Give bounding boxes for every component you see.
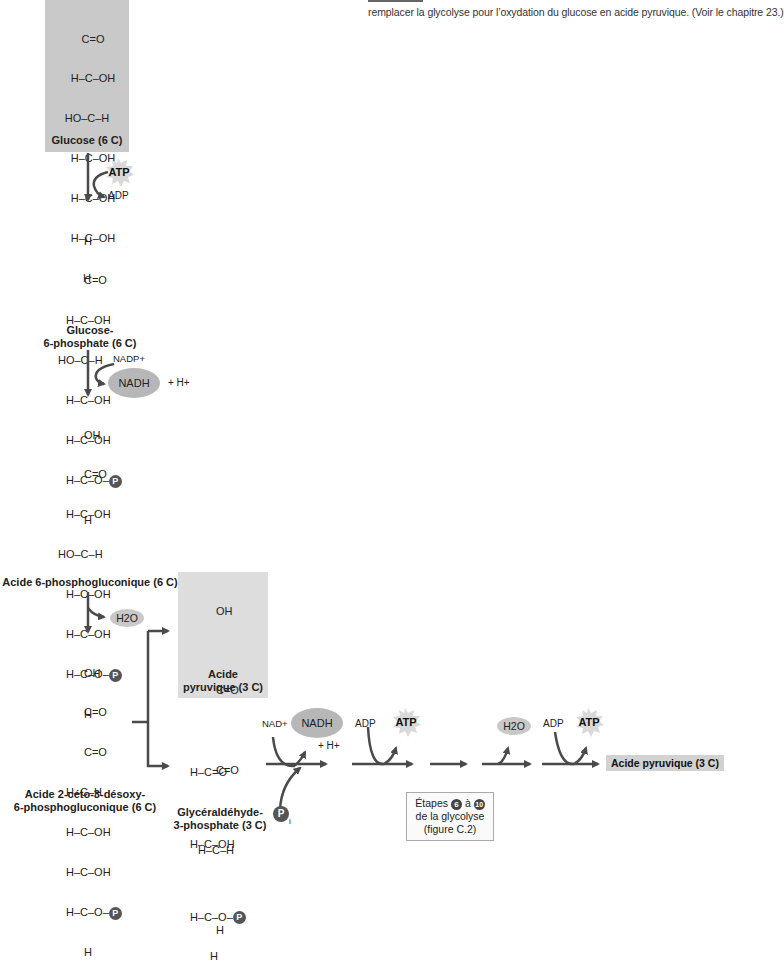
phosphate-icon: P [109, 907, 122, 920]
nadh-label-2: NADH [301, 717, 332, 729]
kdpg-row-text: H–C–O– [66, 906, 109, 918]
steps-prefix: Étapes [415, 797, 448, 809]
kdpg-row: H [58, 946, 158, 959]
plus-h-label-2: + H+ [318, 740, 340, 751]
g3p-row: H–C–O–P [190, 911, 280, 924]
adp-label-a: ADP [355, 718, 376, 729]
adp-label-b: ADP [543, 718, 564, 729]
nadh-ellipse-2: NADH [291, 708, 343, 738]
nadh-label: NADH [118, 377, 149, 389]
bond-line [190, 878, 280, 884]
steps-mid: à [465, 797, 471, 809]
steps-line3: (figure C.2) [412, 823, 488, 836]
final-product-box: Acide pyruvique (3 C) [606, 755, 724, 771]
phosphate-icon: P [233, 911, 246, 924]
atp-label-b: ATP [575, 716, 603, 728]
water-label-2: H2O [503, 720, 525, 732]
g3p-row-text: H–C–O– [190, 911, 233, 923]
adp-label: ADP [108, 190, 129, 201]
steps-line1: Étapes 6 à 10 [412, 797, 488, 810]
water-label: H2O [116, 612, 138, 624]
plus-h-label: + H+ [168, 377, 190, 388]
kdpg-row: H–C–OH [58, 866, 158, 879]
nadp-label: NADP+ [113, 353, 145, 364]
kdpg-row: H–C–O–P [58, 906, 158, 919]
glycolysis-steps-box: Étapes 6 à 10 de la glycolyse (figure C.… [406, 792, 494, 841]
step-number-6: 6 [451, 799, 462, 810]
water-ellipse-1: H2O [110, 609, 144, 627]
nad-label: NAD+ [262, 718, 288, 729]
water-ellipse-2: H2O [497, 717, 531, 735]
steps-line2: de la glycolyse [412, 810, 488, 823]
atp-label-a: ATP [392, 716, 420, 728]
atp-label: ATP [104, 166, 134, 178]
step-number-10: 10 [474, 799, 485, 810]
nadh-ellipse: NADH [108, 368, 160, 398]
g3p-row: H [190, 950, 280, 963]
phosphate-icon: P [273, 806, 289, 822]
inorganic-subscript: i [289, 817, 291, 826]
inorganic-phosphate: Pi [273, 804, 291, 826]
